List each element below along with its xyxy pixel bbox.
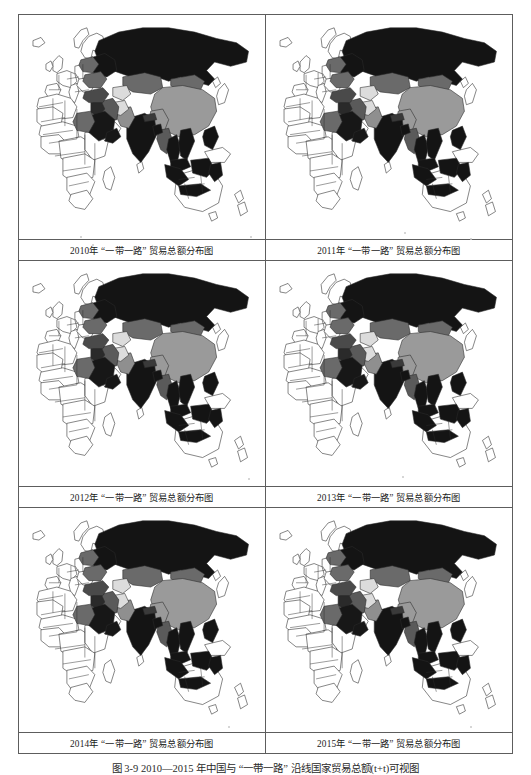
country-sri-lanka (384, 161, 391, 173)
country-ireland (293, 61, 300, 72)
country-philippines (450, 126, 466, 150)
country-japan (464, 83, 476, 104)
figure-caption: 图 3-9 2010—2015 年中国与 “一带一路” 沿线国家贸易总额(t+t… (0, 760, 531, 775)
country-uzbek (113, 332, 131, 347)
panel-cell-2015[interactable]: 2015年 “一带一路” 贸易总额分布图 (266, 508, 513, 753)
choropleth-map-svg (19, 508, 265, 732)
panel-caption-2012: 2012年 “一带一路” 贸易总额分布图 (19, 486, 265, 507)
country-tasmania (456, 212, 465, 222)
panel-caption-2013: 2013年 “一带一路” 贸易总额分布图 (266, 486, 513, 507)
country-iceland (280, 530, 292, 540)
country-ireland (46, 61, 53, 72)
country-ireland (293, 554, 300, 565)
country-uk-ireland (53, 56, 63, 73)
choropleth-map-svg (266, 261, 513, 485)
panel-cell-2011[interactable]: 2011年 “一带一路” 贸易总额分布图 (266, 15, 513, 260)
country-nz-n (235, 683, 244, 696)
map-2011[interactable] (266, 15, 513, 239)
country-russia (95, 28, 249, 86)
country-nz-n (235, 437, 244, 450)
country-nz-n (482, 683, 491, 696)
choropleth-map-svg (19, 261, 265, 485)
country-tasmania (209, 212, 218, 222)
panel-row-1: 2010年 “一带一路” 贸易总额分布图 2011年 “一带一路” 贸易总额分布… (19, 15, 512, 260)
country-sri-lanka (137, 161, 144, 173)
country-japan (464, 576, 476, 597)
country-uzbek (360, 332, 378, 347)
country-philippines (450, 619, 466, 643)
choropleth-map-svg (266, 508, 513, 732)
country-sri-lanka (137, 654, 144, 666)
country-russia (95, 520, 249, 578)
country-vietnam (426, 375, 442, 407)
country-iceland (280, 284, 292, 294)
country-nz-s (238, 448, 248, 462)
country-iceland (280, 37, 292, 47)
choropleth-map-svg (19, 15, 265, 239)
country-tasmania (456, 458, 465, 468)
country-vietnam (179, 375, 195, 407)
map-2014[interactable] (19, 508, 265, 732)
map-2010[interactable] (19, 15, 265, 239)
country-iceland (33, 37, 45, 47)
country-japan (217, 330, 229, 351)
country-tasmania (209, 704, 218, 714)
map-2013[interactable] (266, 261, 513, 485)
map-2012[interactable] (19, 261, 265, 485)
country-nz-s (485, 695, 495, 709)
country-uk-ireland (300, 56, 310, 73)
country-ireland (46, 307, 53, 318)
country-vietnam (179, 621, 195, 653)
country-nz-s (238, 202, 248, 216)
country-sri-lanka (384, 408, 391, 420)
map-2015[interactable] (266, 508, 513, 732)
country-tasmania (456, 704, 465, 714)
country-russia (342, 274, 496, 332)
panel-cell-2014[interactable]: 2014年 “一带一路” 贸易总额分布图 (19, 508, 266, 753)
panel-caption-2015: 2015年 “一带一路” 贸易总额分布图 (266, 732, 513, 753)
country-nz-s (485, 202, 495, 216)
country-nz-n (482, 190, 491, 203)
country-nz-s (238, 695, 248, 709)
country-ireland (46, 554, 53, 565)
country-uzbek (113, 578, 131, 593)
country-madagascar (103, 659, 115, 683)
panel-caption-2011: 2011年 “一带一路” 贸易总额分布图 (266, 239, 513, 260)
country-madagascar (103, 413, 115, 437)
country-uk-ireland (300, 548, 310, 565)
country-philippines (450, 372, 466, 396)
country-philippines (203, 126, 219, 150)
country-russia (342, 520, 496, 578)
panel-row-3: 2014年 “一带一路” 贸易总额分布图 2015年 “一带一路” 贸易总额分布… (19, 508, 512, 753)
country-nz-n (235, 190, 244, 203)
country-russia (95, 274, 249, 332)
country-japan (217, 83, 229, 104)
panel-cell-2010[interactable]: 2010年 “一带一路” 贸易总额分布图 (19, 15, 266, 260)
country-madagascar (103, 167, 115, 191)
country-russia (342, 28, 496, 86)
country-madagascar (350, 659, 362, 683)
country-sri-lanka (384, 654, 391, 666)
country-ireland (293, 307, 300, 318)
country-nz-s (485, 448, 495, 462)
country-iceland (33, 284, 45, 294)
country-uk-ireland (300, 302, 310, 319)
country-vietnam (426, 621, 442, 653)
country-japan (217, 576, 229, 597)
country-uk-ireland (53, 548, 63, 565)
panel-row-2: 2012年 “一带一路” 贸易总额分布图 2013年 “一带一路” 贸易总额分布… (19, 261, 512, 506)
country-sri-lanka (137, 408, 144, 420)
country-japan (464, 330, 476, 351)
country-vietnam (179, 128, 195, 160)
panel-cell-2012[interactable]: 2012年 “一带一路” 贸易总额分布图 (19, 261, 266, 506)
country-philippines (203, 619, 219, 643)
country-nz-n (482, 437, 491, 450)
country-madagascar (350, 167, 362, 191)
choropleth-map-svg (266, 15, 513, 239)
panel-cell-2013[interactable]: 2013年 “一带一路” 贸易总额分布图 (266, 261, 513, 506)
country-madagascar (350, 413, 362, 437)
country-vietnam (426, 128, 442, 160)
country-uk-ireland (53, 302, 63, 319)
country-iceland (33, 530, 45, 540)
country-uzbek (360, 86, 378, 101)
